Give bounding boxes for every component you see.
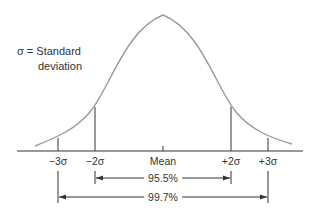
sigma-legend: σ = Standard deviation	[17, 44, 82, 74]
tick-label-minus-2-sigma: −2σ	[86, 155, 104, 167]
tick-label-plus-2-sigma: +2σ	[222, 155, 240, 167]
arrowhead-right-95	[223, 176, 230, 181]
range-label-95: 95.5%	[144, 172, 182, 184]
tick-label-mean: Mean	[150, 155, 176, 167]
tick-label-minus-3-sigma: −3σ	[49, 155, 67, 167]
legend-line-2: deviation	[17, 59, 82, 74]
arrowhead-left-99	[59, 195, 66, 200]
range-label-99: 99.7%	[144, 191, 182, 203]
arrowhead-right-99	[260, 195, 267, 200]
bell-curve	[35, 15, 292, 146]
legend-line-1: σ = Standard	[17, 44, 82, 59]
arrowhead-left-95	[96, 176, 103, 181]
tick-label-plus-3-sigma: +3σ	[259, 155, 277, 167]
